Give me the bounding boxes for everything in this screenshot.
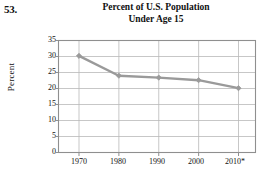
line-chart-svg	[0, 0, 262, 172]
grid-lines	[59, 41, 256, 153]
figure-root: 53. Percent of U.S. Population Under Age…	[0, 0, 262, 172]
plot-frame	[59, 41, 256, 153]
plot-area: Percent 35 30 25 20 15 10 5 0 1970 1980 …	[0, 0, 262, 172]
